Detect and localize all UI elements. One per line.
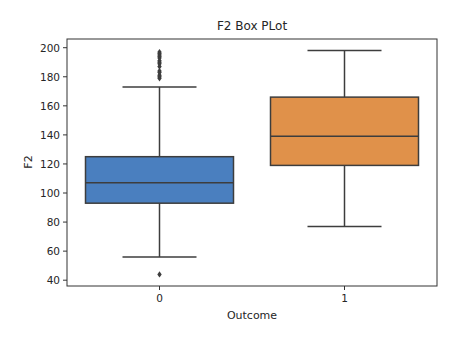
y-axis-label: F2 (22, 155, 35, 168)
iqr-box (86, 157, 234, 203)
plot-area (86, 49, 419, 278)
y-tick-label: 40 (47, 274, 60, 286)
box-group-1 (271, 51, 419, 227)
x-tick-label: 1 (341, 292, 348, 304)
x-axis: 01 (156, 286, 348, 304)
iqr-box (271, 97, 419, 165)
box-plot: F2 Box PLot 406080100120140160180200 01 … (0, 0, 464, 342)
chart-title: F2 Box PLot (217, 19, 288, 33)
x-axis-label: Outcome (227, 309, 277, 322)
y-tick-label: 80 (47, 216, 60, 228)
y-axis: 406080100120140160180200 (40, 42, 67, 286)
y-tick-label: 120 (40, 158, 60, 170)
outlier-marker (157, 271, 161, 277)
y-tick-label: 200 (40, 42, 60, 54)
y-tick-label: 160 (40, 100, 60, 112)
y-tick-label: 60 (47, 245, 60, 257)
box-group-0 (86, 49, 234, 278)
y-tick-label: 180 (40, 71, 60, 83)
x-tick-label: 0 (156, 292, 163, 304)
y-tick-label: 100 (40, 187, 60, 199)
y-tick-label: 140 (40, 129, 60, 141)
